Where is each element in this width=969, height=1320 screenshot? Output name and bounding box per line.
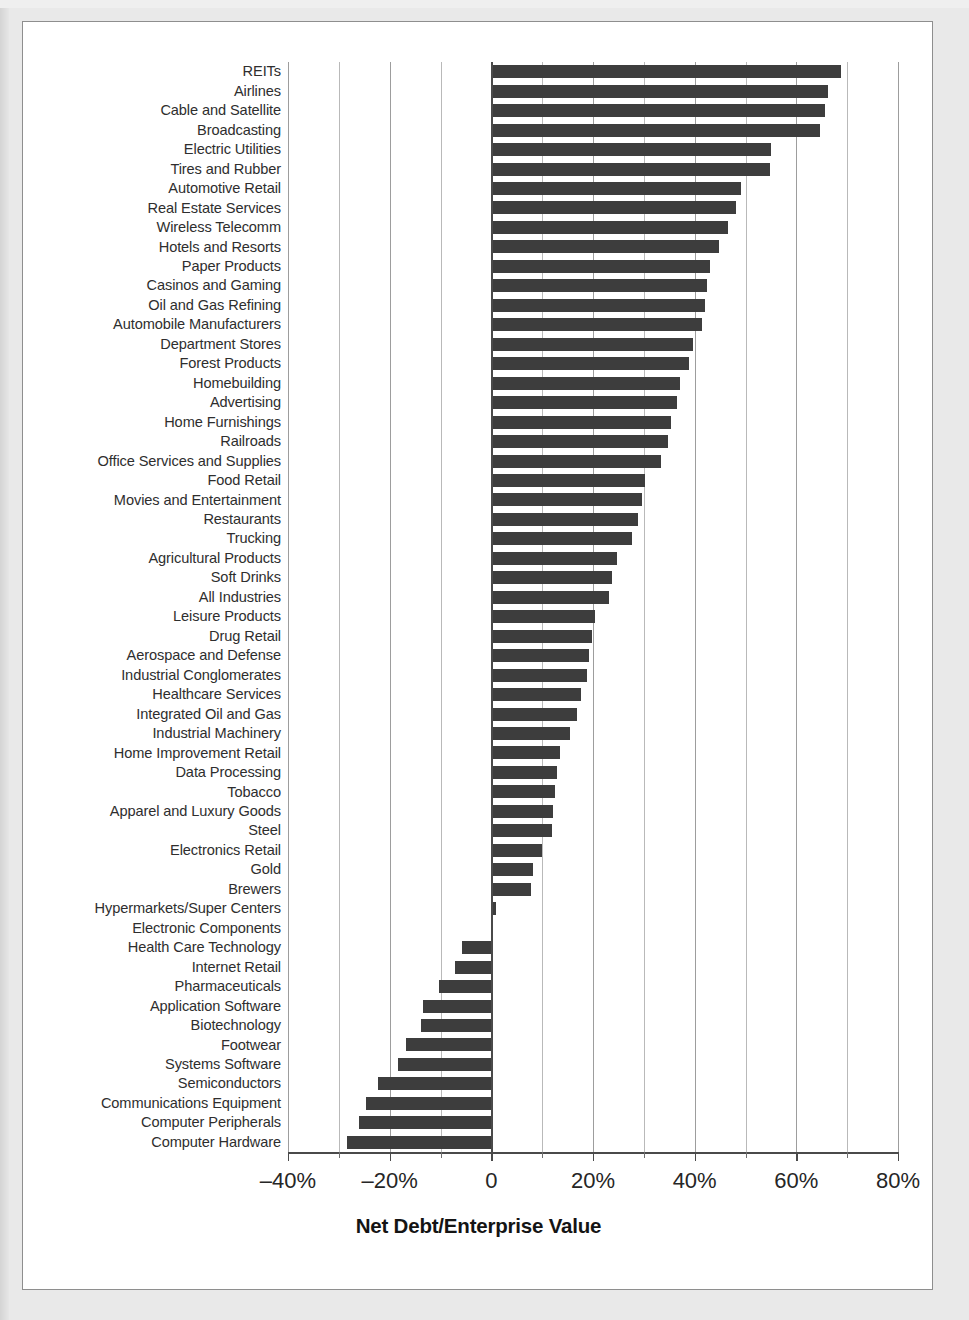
category-label: Oil and Gas Refining [31,298,281,313]
axis-tick-major [898,1152,899,1161]
category-label: Brewers [31,882,281,897]
bar [491,416,671,429]
scan-top-edge [0,0,969,8]
bar [462,941,491,954]
bar [491,493,641,506]
category-label: Cable and Satellite [31,103,281,118]
category-label: Paper Products [31,259,281,274]
bar [491,240,718,253]
gridline [796,62,797,1152]
axis-tick-minor [847,1152,848,1158]
category-label: Computer Peripherals [31,1115,281,1130]
axis-tick-minor [746,1152,747,1158]
bar [491,318,702,331]
bar [491,260,710,273]
axis-tick-minor [542,1152,543,1158]
axis-tick-major [288,1152,289,1161]
category-label: Electric Utilities [31,142,281,157]
scan-left-edge [0,0,9,1320]
category-label: Industrial Machinery [31,726,281,741]
category-label: Forest Products [31,356,281,371]
bar [491,163,770,176]
category-label: Hypermarkets/Super Centers [31,901,281,916]
bar [491,357,688,370]
category-label: Electronics Retail [31,843,281,858]
category-label: Industrial Conglomerates [31,668,281,683]
category-label: Footwear [31,1038,281,1053]
category-label: Integrated Oil and Gas [31,707,281,722]
category-label: Electronic Components [31,921,281,936]
category-label: Healthcare Services [31,687,281,702]
category-label: Real Estate Services [31,201,281,216]
category-label: Aerospace and Defense [31,648,281,663]
bar [491,610,594,623]
axis-tick-minor [339,1152,340,1158]
bar [406,1038,491,1051]
bar [491,591,608,604]
category-label: Internet Retail [31,960,281,975]
bar [398,1058,491,1071]
axis-tick-major [390,1152,391,1161]
category-label: Airlines [31,84,281,99]
category-label: Home Improvement Retail [31,746,281,761]
category-label: Biotechnology [31,1018,281,1033]
bar [439,980,491,993]
category-label: Home Furnishings [31,415,281,430]
axis-tick-major [695,1152,696,1161]
category-label: Broadcasting [31,123,281,138]
axis-tick-major [593,1152,594,1161]
bar [491,824,551,837]
bar [491,785,555,798]
category-label: Tires and Rubber [31,162,281,177]
category-label: Tobacco [31,785,281,800]
category-label: Data Processing [31,765,281,780]
category-label: Wireless Telecomm [31,220,281,235]
bar [491,513,638,526]
bar [347,1136,491,1149]
bar [491,474,645,487]
zero-line [491,62,493,1152]
bar [421,1019,491,1032]
category-label: Health Care Technology [31,940,281,955]
bar [491,669,587,682]
category-label: Soft Drinks [31,570,281,585]
category-label: All Industries [31,590,281,605]
category-label: Hotels and Resorts [31,240,281,255]
bar [491,124,819,137]
category-label: Semiconductors [31,1076,281,1091]
axis-tick-label: 80% [838,1168,958,1194]
category-label: Movies and Entertainment [31,493,281,508]
bar [491,182,741,195]
bar [491,727,569,740]
category-label: Application Software [31,999,281,1014]
bar [491,844,541,857]
gridline [898,62,899,1152]
bar [491,649,589,662]
bar [491,863,532,876]
category-label: Apparel and Luxury Goods [31,804,281,819]
category-label: Advertising [31,395,281,410]
bar [491,435,668,448]
category-label: Leisure Products [31,609,281,624]
bar [491,455,661,468]
category-label: Railroads [31,434,281,449]
plot-area-wrapper: REITsAirlinesCable and SatelliteBroadcas… [23,22,932,1289]
bar [491,552,617,565]
category-label: Food Retail [31,473,281,488]
bar [491,708,577,721]
category-label: Pharmaceuticals [31,979,281,994]
value-axis-title: Net Debt/Enterprise Value [23,1214,934,1238]
category-label: Computer Hardware [31,1135,281,1150]
bar [491,85,828,98]
axis-tick-major [796,1152,797,1161]
bar [491,746,560,759]
gridline [339,62,340,1152]
gridline [746,62,747,1152]
category-label: Restaurants [31,512,281,527]
bar [359,1116,491,1129]
category-label: REITs [31,64,281,79]
axis-tick-major [491,1152,492,1161]
axis-tick-minor [644,1152,645,1158]
bar [491,299,705,312]
bar [491,571,611,584]
